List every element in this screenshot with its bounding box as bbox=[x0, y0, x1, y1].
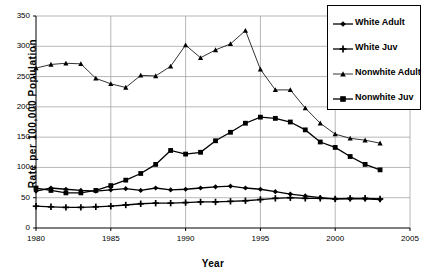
x-tick-label: 2000 bbox=[318, 234, 352, 243]
line-chart: Rate per 100,000 Population Year 0501001… bbox=[0, 0, 426, 279]
x-axis-title: Year bbox=[0, 258, 426, 269]
y-tick-label: 0 bbox=[4, 223, 30, 232]
y-tick-label: 50 bbox=[4, 193, 30, 202]
legend-marker-icon bbox=[332, 91, 354, 103]
y-tick-label: 300 bbox=[4, 41, 30, 50]
y-tick-label: 350 bbox=[4, 11, 30, 20]
y-tick-label: 200 bbox=[4, 102, 30, 111]
series-nonwhite-juv bbox=[34, 115, 383, 196]
legend-item-nonwhite-juv[interactable]: Nonwhite Juv bbox=[332, 87, 422, 107]
legend-item-label: White Adult bbox=[355, 17, 405, 27]
x-tick-label: 1990 bbox=[169, 234, 203, 243]
x-tick-label: 1985 bbox=[94, 234, 128, 243]
y-tick-label: 100 bbox=[4, 162, 30, 171]
legend-item-white-adult[interactable]: White Adult bbox=[332, 12, 422, 32]
legend-item-label: Nonwhite Adult bbox=[355, 67, 421, 77]
legend-marker-icon bbox=[332, 41, 354, 53]
legend-item-label: Nonwhite Juv bbox=[355, 92, 414, 102]
legend-marker-icon bbox=[332, 16, 354, 28]
x-tick-label: 2005 bbox=[393, 234, 426, 243]
x-tick-label: 1980 bbox=[19, 234, 53, 243]
chart-legend: White AdultWhite JuvNonwhite AdultNonwhi… bbox=[327, 5, 421, 110]
legend-item-label: White Juv bbox=[355, 42, 398, 52]
y-tick-label: 250 bbox=[4, 72, 30, 81]
y-tick-label: 150 bbox=[4, 132, 30, 141]
legend-item-nonwhite-adult[interactable]: Nonwhite Adult bbox=[332, 62, 422, 82]
legend-item-white-juv[interactable]: White Juv bbox=[332, 37, 422, 57]
legend-marker-icon bbox=[332, 66, 354, 78]
x-tick-label: 1995 bbox=[243, 234, 277, 243]
series-white-juv bbox=[33, 195, 383, 211]
